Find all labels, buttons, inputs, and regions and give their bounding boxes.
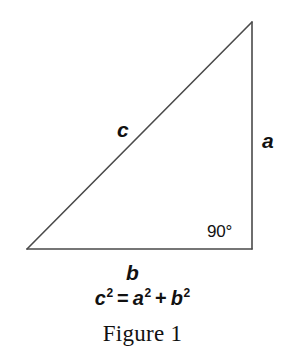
equation-equals: = <box>117 287 129 309</box>
equation-first-exponent: 2 <box>144 286 151 300</box>
figure-caption: Figure 1 <box>0 322 285 345</box>
equation-second-base: b <box>171 287 183 309</box>
vertical-leg-label: a <box>262 130 274 151</box>
hypotenuse-label: c <box>117 119 129 140</box>
pythagorean-equation: c2=a2+b2 <box>0 288 285 308</box>
equation-left-exponent: 2 <box>106 286 113 300</box>
equation-first-base: a <box>133 287 144 309</box>
base-leg-label: b <box>126 262 139 283</box>
equation-left-base: c <box>95 287 106 309</box>
figure-container: c a b 90° c2=a2+b2 Figure 1 <box>0 0 285 355</box>
equation-second-exponent: 2 <box>184 286 191 300</box>
equation-plus: + <box>155 287 167 309</box>
hypotenuse-line <box>27 22 252 249</box>
right-angle-label: 90° <box>207 223 232 240</box>
